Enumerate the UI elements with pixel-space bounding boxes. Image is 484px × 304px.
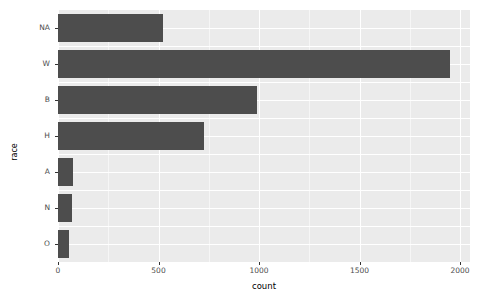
y-tick-label: N	[0, 204, 58, 212]
bar	[58, 50, 450, 78]
bar	[58, 86, 257, 114]
y-axis-title: race	[10, 143, 19, 161]
x-tick-mark	[360, 262, 361, 265]
y-tick-label: B	[0, 96, 58, 104]
gridline-horizontal-minor	[58, 190, 470, 191]
x-tick-label: 1500	[350, 267, 369, 275]
x-tick-mark	[159, 262, 160, 265]
bar	[58, 14, 163, 42]
bar	[58, 230, 69, 258]
gridline-horizontal-minor	[58, 154, 470, 155]
gridline-horizontal-minor	[58, 118, 470, 119]
y-tick-label: O	[0, 240, 58, 248]
gridline-horizontal-major	[58, 208, 470, 209]
x-tick-mark	[259, 262, 260, 265]
plot-panel	[58, 10, 470, 262]
x-tick-label: 500	[151, 267, 165, 275]
bar-chart: NAWBHANO race 0500100015002000 count	[0, 0, 484, 304]
x-tick-mark	[58, 262, 59, 265]
gridline-horizontal-major	[58, 172, 470, 173]
gridline-horizontal-minor	[58, 226, 470, 227]
gridline-horizontal-minor	[58, 82, 470, 83]
bar	[58, 122, 204, 150]
gridline-horizontal-major	[58, 244, 470, 245]
y-tick-label: NA	[0, 24, 58, 32]
x-axis-title: count	[58, 281, 470, 291]
bar	[58, 194, 72, 222]
y-tick-label: W	[0, 60, 58, 68]
gridline-horizontal-minor	[58, 46, 470, 47]
bar	[58, 158, 73, 186]
y-tick-label: H	[0, 132, 58, 140]
x-tick-label: 0	[56, 267, 61, 275]
x-tick-label: 1000	[249, 267, 268, 275]
x-tick-mark	[460, 262, 461, 265]
y-tick-label: A	[0, 168, 58, 176]
x-tick-label: 2000	[450, 267, 469, 275]
